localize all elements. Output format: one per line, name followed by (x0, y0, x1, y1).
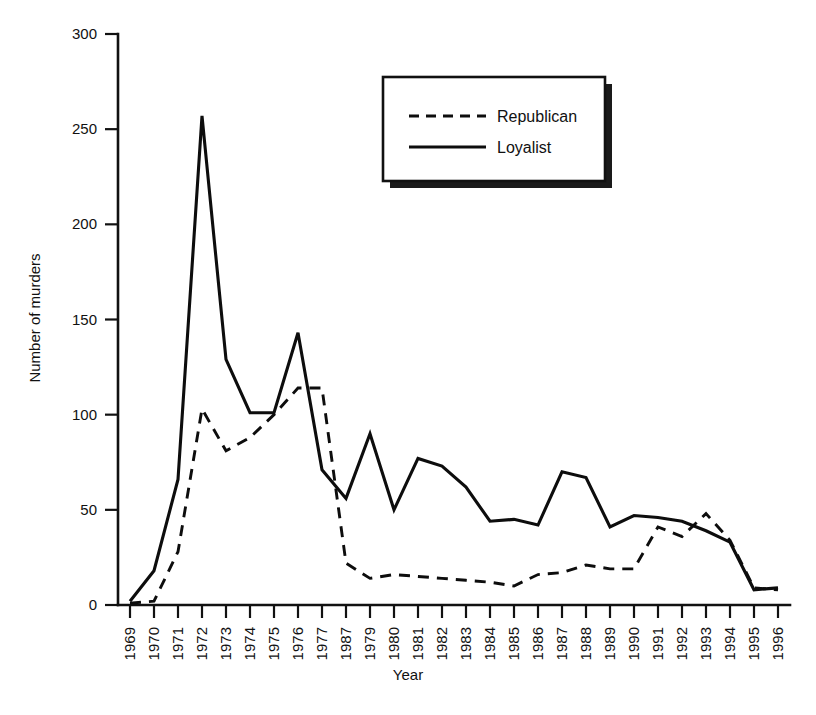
x-tick-label: 1975 (265, 627, 282, 660)
x-tick-label: 1983 (457, 627, 474, 660)
y-tick-label: 150 (72, 311, 97, 328)
x-tick-label: 1994 (721, 627, 738, 660)
chart-legend: Republican Loyalist (383, 77, 612, 188)
x-tick-label: 1980 (385, 627, 402, 660)
y-tick-label: 50 (80, 501, 97, 518)
y-tick-label: 300 (72, 25, 97, 42)
x-tick-label: 1995 (745, 627, 762, 660)
x-tick-label: 1977 (313, 627, 330, 660)
x-tick-label: 1972 (193, 627, 210, 660)
x-tick-label: 1982 (433, 627, 450, 660)
murders-by-year-line-chart: 050100150200250300 196919701971197219731… (0, 0, 816, 715)
x-tick-label: 1993 (697, 627, 714, 660)
x-tick-label: 1970 (145, 627, 162, 660)
x-tick-label: 1985 (505, 627, 522, 660)
x-tick-label: 1973 (217, 627, 234, 660)
data-series-group (130, 116, 778, 603)
series-line-republican (130, 388, 778, 603)
x-tick-label: 1987 (337, 627, 354, 660)
x-tick-label: 1981 (409, 627, 426, 660)
x-axis-ticks: 1969197019711972197319741975197619771987… (121, 605, 786, 660)
y-tick-label: 250 (72, 120, 97, 137)
x-tick-label: 1987 (553, 627, 570, 660)
y-tick-label: 100 (72, 406, 97, 423)
y-tick-label: 0 (89, 596, 97, 613)
x-tick-label: 1984 (481, 627, 498, 660)
x-tick-label: 1971 (169, 627, 186, 660)
x-tick-label: 1988 (577, 627, 594, 660)
x-tick-label: 1992 (673, 627, 690, 660)
legend-label-republican: Republican (497, 108, 577, 125)
x-tick-label: 1996 (769, 627, 786, 660)
y-axis-ticks: 050100150200250300 (72, 25, 118, 613)
y-tick-label: 200 (72, 215, 97, 232)
x-tick-label: 1969 (121, 627, 138, 660)
x-tick-label: 1974 (241, 627, 258, 660)
x-tick-label: 1979 (361, 627, 378, 660)
x-tick-label: 1986 (529, 627, 546, 660)
legend-box (383, 77, 605, 181)
x-tick-label: 1976 (289, 627, 306, 660)
x-tick-label: 1990 (625, 627, 642, 660)
x-tick-label: 1989 (601, 627, 618, 660)
y-axis-title: Number of murders (26, 253, 43, 382)
series-line-loyalist (130, 116, 778, 601)
chart-container: 050100150200250300 196919701971197219731… (0, 0, 816, 715)
legend-label-loyalist: Loyalist (497, 139, 552, 156)
x-axis-title: Year (393, 666, 423, 683)
x-tick-label: 1991 (649, 627, 666, 660)
